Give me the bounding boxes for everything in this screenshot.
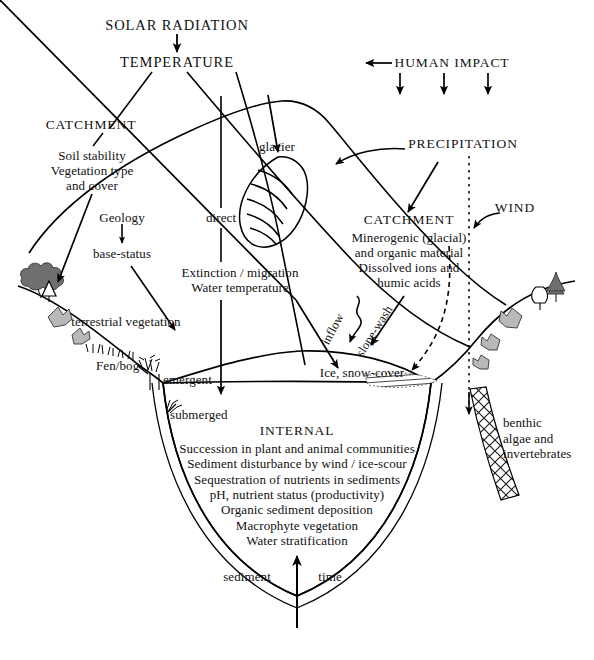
label-geology: Geology: [99, 211, 144, 226]
label-submerged: submerged: [170, 408, 228, 423]
arrow-precipitation-to-catchment: [408, 162, 438, 212]
arrow-inflow: [350, 296, 361, 342]
shrub-left-1: [48, 307, 72, 327]
label-human-impact: HUMAN IMPACT: [395, 55, 510, 70]
label-benthic: benthic algae and invertebrates: [503, 415, 571, 462]
left-shore-vegetation: [21, 263, 182, 413]
label-wind: WIND: [495, 200, 535, 215]
label-catchment-right-detail: Minerogenic (glacial) and organic materi…: [351, 230, 466, 290]
label-catchment-left-detail: Soil stability Vegetation type and cover: [51, 148, 134, 193]
label-solar-radiation: SOLAR RADIATION: [105, 17, 249, 33]
label-sediment: sediment: [223, 570, 271, 585]
shrub-right-3: [473, 355, 489, 369]
shrub-right-1: [499, 308, 522, 328]
label-terrestrial-vegetation: terrestrial vegetation: [71, 315, 180, 330]
arrow-wind-to-surface: [474, 213, 500, 228]
tick-catchment-to-soil: [93, 133, 103, 146]
deciduous-tree-left: [21, 263, 64, 298]
label-precipitation: PRECIPITATION: [408, 136, 518, 151]
arrow-precipitation-to-ridge: [336, 149, 405, 164]
glacier-shape: [240, 157, 308, 247]
label-catchment-left: CATCHMENT: [46, 117, 137, 132]
lake-ecosystem-diagram: SOLAR RADIATION TEMPERATURE HUMAN IMPACT…: [0, 0, 594, 660]
arrow-vegetation-to-shore: [58, 194, 92, 282]
diagram-canvas: [0, 0, 594, 660]
label-extinction-migration: Extinction / migration Water temperature: [181, 265, 298, 295]
label-internal-heading: INTERNAL: [260, 423, 335, 438]
label-direct: direct: [206, 211, 236, 226]
conifer-tree-right: [547, 272, 565, 302]
label-emergent: emergent: [163, 373, 212, 388]
label-base-status: base-status: [93, 247, 151, 262]
shrub-left-2: [72, 328, 90, 344]
label-time: time: [318, 570, 342, 585]
tree-outline-right: [532, 287, 548, 310]
label-fen-bog: Fen/bog: [96, 359, 139, 374]
shrub-right-2: [481, 334, 500, 350]
label-ice-snow-cover: Ice, snow-cover: [320, 366, 405, 381]
label-internal-block: Succession in plant and animal communiti…: [179, 441, 415, 548]
right-shore-vegetation: [473, 272, 565, 369]
label-temperature: TEMPERATURE: [120, 54, 234, 70]
label-catchment-right: CATCHMENT: [364, 212, 455, 227]
label-glacier: glacier: [259, 140, 295, 155]
